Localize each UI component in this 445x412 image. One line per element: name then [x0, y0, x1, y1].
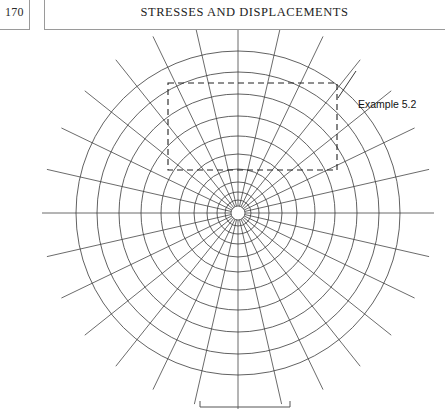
- figure-svg: [0, 30, 445, 412]
- scale-bar: [200, 401, 290, 407]
- radial-line: [194, 30, 236, 206]
- radial-line: [47, 215, 231, 257]
- radial-line: [194, 220, 236, 404]
- concentric-circle: [231, 206, 245, 220]
- radial-line: [47, 169, 231, 211]
- running-head: STRESSES AND DISPLACEMENTS: [44, 4, 445, 20]
- book-page: 170 STRESSES AND DISPLACEMENTS Example 5…: [0, 0, 445, 412]
- radial-line: [245, 215, 429, 257]
- radial-line-group: [42, 30, 434, 409]
- radial-line: [240, 30, 282, 206]
- radial-line: [245, 169, 429, 211]
- radial-line: [240, 220, 282, 404]
- callout-label: Example 5.2: [358, 98, 416, 111]
- polar-influence-chart: Example 5.2: [0, 30, 445, 412]
- page-number: 170: [5, 5, 24, 19]
